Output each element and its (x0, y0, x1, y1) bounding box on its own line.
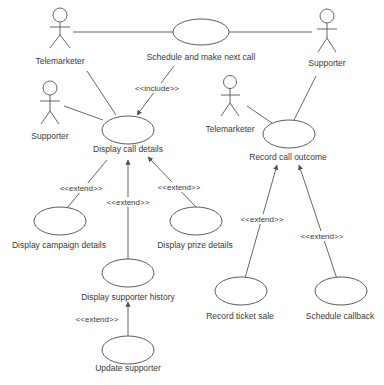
association-telemarketer-display-call (87, 71, 116, 115)
actor-telemarketer-right-icon (221, 76, 240, 117)
use-case-diagram: Telemarketer Supporter Supporter Telemar… (0, 0, 384, 385)
actor-telemarketer-icon (50, 8, 70, 48)
stereotype-extend-prize: <<extend>> (158, 183, 201, 192)
stereotype-extend-update: <<extend>> (76, 315, 119, 324)
use-case-label-display-campaign-details: Display campaign details (12, 240, 106, 250)
use-case-display-prize-details (170, 207, 222, 235)
actor-label-telemarketer: Telemarketer (35, 56, 84, 66)
extend-arrow-callback (299, 165, 337, 279)
association-telemarketer2-record-outcome (247, 106, 272, 123)
use-case-label-schedule-next-call: Schedule and make next call (147, 52, 256, 62)
use-case-label-display-prize-details: Display prize details (157, 240, 233, 250)
use-case-label-schedule-callback: Schedule callback (306, 311, 375, 321)
use-case-schedule-callback (315, 277, 367, 305)
use-case-schedule-next-call (173, 19, 229, 45)
use-case-display-campaign-details (34, 207, 86, 235)
actor-supporter-icon (317, 9, 337, 52)
use-case-display-supporter-history (102, 259, 154, 287)
actor-supporter-left-icon (40, 81, 60, 124)
use-case-label-update-supporter: Update supporter (95, 363, 161, 373)
stereotype-extend-campaign: <<extend>> (60, 184, 103, 193)
actor-label-supporter-left: Supporter (31, 131, 68, 141)
actor-label-telemarketer-right: Telemarketer (205, 124, 254, 134)
use-case-display-call-details (102, 116, 154, 144)
use-case-update-supporter (102, 336, 154, 364)
stereotype-extend-callback: <<extend>> (301, 232, 344, 241)
actor-label-supporter: Supporter (308, 58, 345, 68)
use-case-label-record-ticket-sale: Record ticket sale (206, 311, 274, 321)
association-supporter-display-call (64, 106, 103, 120)
stereotype-extend-history: <<extend>> (107, 198, 150, 207)
use-case-label-display-call-details: Display call details (93, 144, 163, 154)
use-case-label-display-supporter-history: Display supporter history (81, 292, 175, 302)
use-case-record-call-outcome (263, 120, 315, 148)
stereotype-include: <<include>> (135, 84, 179, 93)
use-case-record-ticket-sale (215, 277, 267, 305)
use-case-label-record-call-outcome: Record call outcome (249, 152, 327, 162)
stereotype-extend-ticket-sale: <<extend>> (241, 215, 284, 224)
association-supporter-record-outcome (294, 76, 316, 120)
